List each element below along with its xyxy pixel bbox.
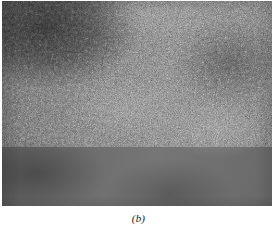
micrograph-image [2, 1, 272, 206]
figure-panel: (b) [0, 0, 277, 231]
figure-panel-label: (b) [0, 212, 277, 225]
micrograph-tone-field [2, 1, 272, 206]
